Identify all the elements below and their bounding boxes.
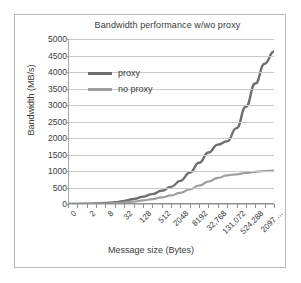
y-tick-label: 4000: [31, 67, 67, 77]
x-tick-mark: [68, 204, 69, 208]
y-tick-label: 500: [31, 183, 67, 193]
legend-label-proxy: proxy: [118, 68, 140, 78]
legend-item-no-proxy: no proxy: [88, 81, 188, 97]
x-tick-mark: [237, 204, 238, 208]
x-tick-mark: [199, 204, 200, 208]
y-tick-label: 0: [31, 199, 67, 209]
x-tick-mark: [171, 204, 172, 208]
x-tick-mark: [227, 204, 228, 208]
y-tick-label: 1000: [31, 166, 67, 176]
x-tick-mark: [105, 204, 106, 208]
chart-legend: proxy no proxy: [88, 65, 188, 97]
gridline: [68, 171, 274, 172]
y-tick-label: 2500: [31, 117, 67, 127]
y-tick-label: 3000: [31, 100, 67, 110]
x-tick-mark: [96, 204, 97, 208]
gridline: [68, 122, 274, 123]
x-tick-mark: [265, 204, 266, 208]
y-axis-ticks: 0500100015002000250030003500400045005000: [25, 39, 67, 204]
y-tick-label: 2000: [31, 133, 67, 143]
x-tick-mark: [143, 204, 144, 208]
x-tick-mark: [255, 204, 256, 208]
gridline: [68, 188, 274, 189]
chart-figure: Bandwidth performance w/wo proxy Bandwid…: [14, 14, 286, 268]
y-tick-label: 4500: [31, 51, 67, 61]
x-tick-mark: [274, 204, 275, 208]
x-tick-mark: [124, 204, 125, 208]
gridline: [68, 56, 274, 57]
gridline: [68, 105, 274, 106]
gridline: [68, 39, 274, 40]
legend-label-no-proxy: no proxy: [118, 84, 153, 94]
legend-item-proxy: proxy: [88, 65, 188, 81]
x-tick-mark: [180, 204, 181, 208]
x-tick-mark: [218, 204, 219, 208]
x-tick-mark: [190, 204, 191, 208]
x-tick-mark: [208, 204, 209, 208]
x-tick-mark: [152, 204, 153, 208]
x-tick-mark: [162, 204, 163, 208]
x-tick-mark: [134, 204, 135, 208]
legend-swatch-no-proxy: [88, 88, 112, 91]
y-axis-line: [68, 39, 69, 204]
x-tick-mark: [87, 204, 88, 208]
chart-title: Bandwidth performance w/wo proxy: [55, 20, 280, 30]
gridline: [68, 138, 274, 139]
x-tick-mark: [77, 204, 78, 208]
plot-area: proxy no proxy: [68, 39, 274, 204]
gridline: [68, 155, 274, 156]
y-tick-label: 3500: [31, 84, 67, 94]
y-tick-label: 5000: [31, 34, 67, 44]
x-axis-tick-labels: 028321285122048819232,768131,072524,2882…: [68, 209, 278, 247]
x-tick-mark: [246, 204, 247, 208]
y-tick-label: 1500: [31, 150, 67, 160]
legend-swatch-proxy: [88, 72, 112, 75]
x-tick-mark: [115, 204, 116, 208]
